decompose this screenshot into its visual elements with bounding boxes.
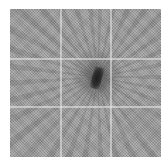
grid-line-horizontal-2 [10, 106, 161, 108]
grid-line-vertical-2 [110, 9, 112, 157]
grid-line-vertical-1 [60, 9, 62, 157]
grayscale-image: Grayscale noisy texture with dark centra… [10, 9, 161, 157]
dark-center-halo [10, 9, 161, 157]
grid-line-horizontal-1 [10, 58, 161, 60]
